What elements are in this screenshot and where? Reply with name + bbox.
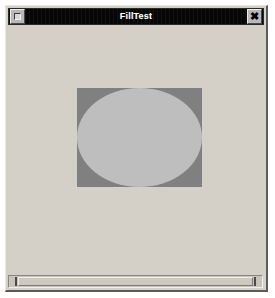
scrollbar-left-tick [15,277,17,286]
window-menu-button[interactable] [10,9,25,24]
screen-root: FillTest ✖ [0,0,275,298]
scrollbar-right-tick [254,277,256,286]
drawing-canvas[interactable] [8,27,263,276]
close-x-icon: ✖ [250,11,259,22]
window-menu-box-icon [14,13,21,20]
close-button[interactable]: ✖ [247,9,262,24]
application-window: FillTest ✖ [5,5,268,292]
horizontal-scrollbar[interactable] [8,275,263,288]
filled-rectangle [77,88,202,187]
filled-ellipse [77,88,202,187]
scrollbar-thumb[interactable] [18,277,253,286]
window-title: FillTest [25,9,247,24]
window-titlebar[interactable]: FillTest ✖ [8,8,264,25]
